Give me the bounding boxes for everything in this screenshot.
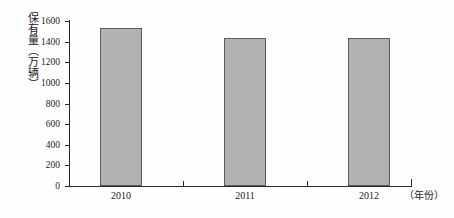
y-tick-label: 200 <box>22 161 60 171</box>
plot-area <box>69 21 411 186</box>
y-tick-label: 600 <box>22 120 60 130</box>
bar <box>224 38 266 187</box>
y-tick-label: 1000 <box>22 78 60 88</box>
bar-chart: 保有量（万辆） 02004006008001000120014001600 20… <box>0 0 454 218</box>
y-tick-mark <box>65 186 70 187</box>
y-tick-label: 800 <box>22 99 60 109</box>
x-tick-label: 2011 <box>210 190 280 201</box>
x-axis-endcap-tick <box>411 179 412 186</box>
y-tick-label: 1600 <box>22 17 60 27</box>
y-tick-label: 400 <box>22 140 60 150</box>
bar <box>348 38 390 187</box>
y-tick-label: 1400 <box>22 37 60 47</box>
x-tick-label: 2010 <box>86 190 156 201</box>
bar <box>100 28 142 186</box>
y-tick-label: 0 <box>22 182 60 192</box>
x-tick-label: 2012 <box>334 190 404 201</box>
y-tick-label: 1200 <box>22 58 60 68</box>
x-axis-title: （年份） <box>404 190 454 201</box>
